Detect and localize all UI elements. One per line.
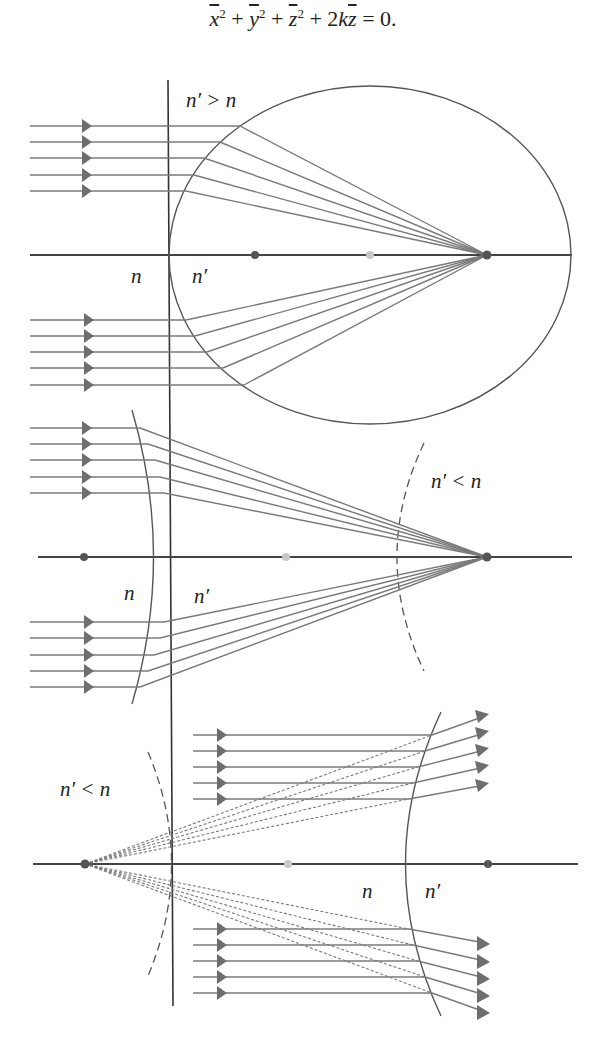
- axis-point-dark: [80, 553, 88, 561]
- panel-1: n′ > n n n′: [30, 86, 572, 424]
- focus-point: [483, 553, 492, 562]
- axis-point-dark: [251, 251, 259, 259]
- upper-rays: [193, 716, 485, 799]
- upper-arrowheads: [82, 421, 92, 500]
- medium-n-label: n: [124, 581, 135, 605]
- vertical-reference-line: [168, 80, 173, 1006]
- optics-diagram: n′ > n n n′: [0, 0, 606, 1041]
- lower-rays: [30, 255, 487, 385]
- lower-rays: [193, 929, 485, 1012]
- lower-outgoing-arrowheads: [477, 936, 490, 1020]
- upper-outgoing-arrowheads: [475, 710, 489, 792]
- condition-label: n′ > n: [186, 88, 236, 112]
- lower-incoming-arrowheads: [217, 922, 227, 1000]
- lower-arrowheads: [84, 313, 94, 392]
- medium-nprime-label: n′: [194, 584, 210, 608]
- axis-point-dark: [484, 860, 492, 868]
- virtual-focus-point: [81, 860, 90, 869]
- medium-n-label: n: [131, 264, 142, 288]
- focus-point: [483, 251, 492, 260]
- condition-label: n′ < n: [60, 777, 110, 801]
- upper-rays: [30, 126, 487, 255]
- medium-n-label: n: [362, 879, 373, 903]
- panel-3: n′ < n n n′: [33, 710, 578, 1020]
- upper-rays: [30, 428, 487, 557]
- medium-nprime-label: n′: [425, 879, 441, 903]
- lower-rays: [30, 557, 487, 687]
- medium-nprime-label: n′: [192, 264, 208, 288]
- axis-point-light: [284, 860, 292, 868]
- axis-point-light: [282, 553, 290, 561]
- lower-arrowheads: [84, 615, 94, 694]
- upper-incoming-arrowheads: [217, 728, 227, 806]
- panel-2: n′ < n n n′: [30, 410, 572, 704]
- upper-arrowheads: [82, 119, 92, 198]
- condition-label: n′ < n: [431, 469, 481, 493]
- axis-point-light: [366, 251, 374, 259]
